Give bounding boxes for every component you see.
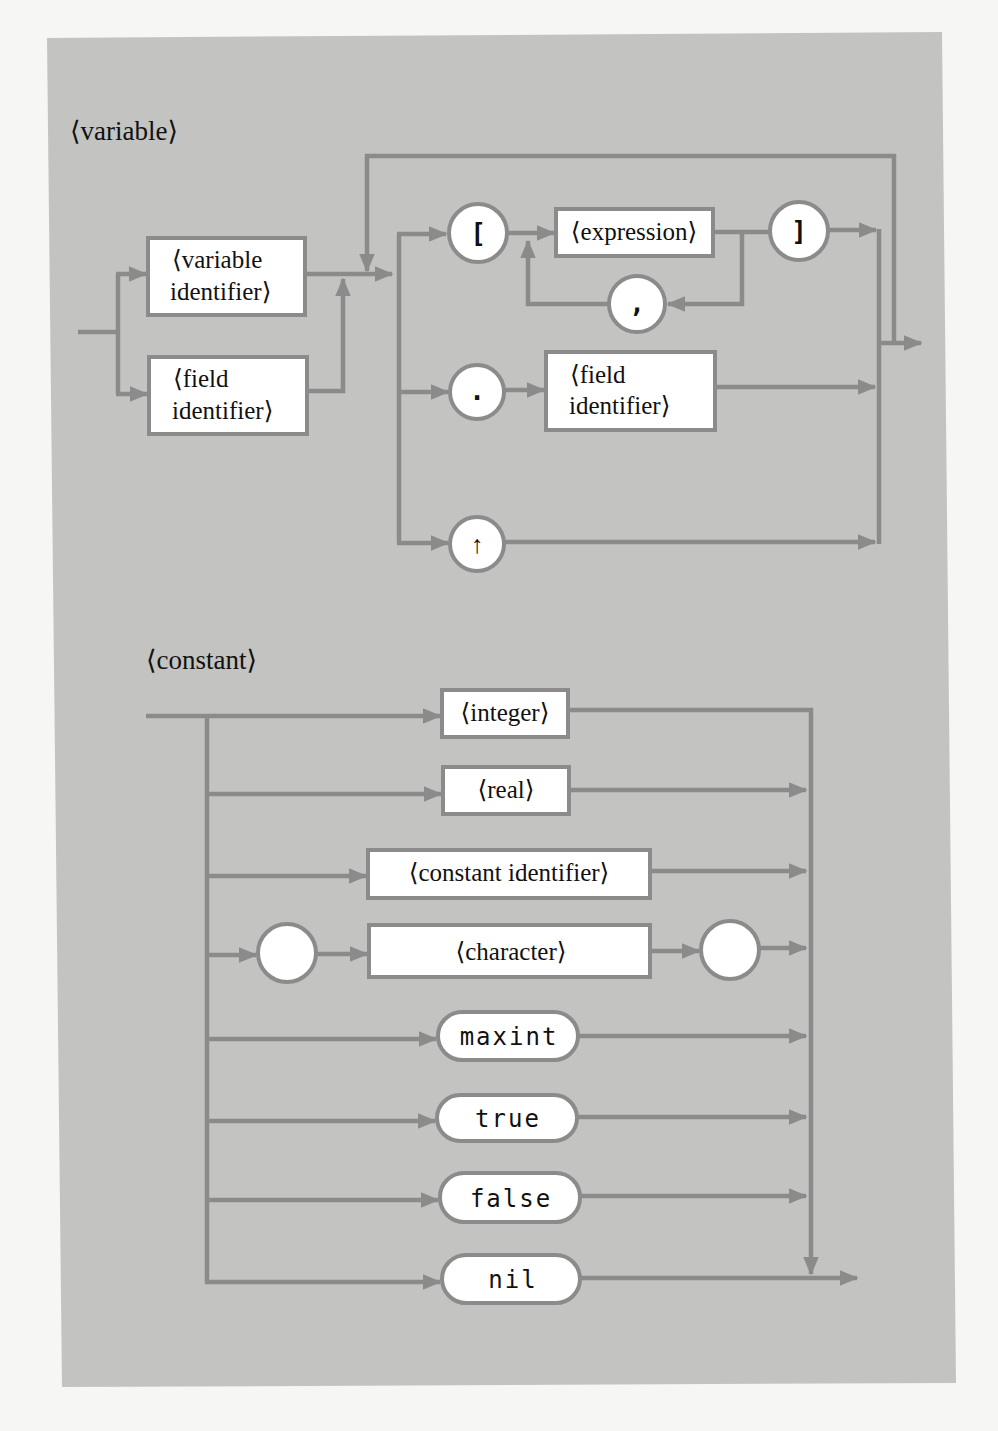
field-identifier-entry-line2: identifier⟩ [172, 397, 273, 424]
close-bracket-symbol: ] [791, 216, 807, 246]
pointer-arrow-icon: ↑ [471, 531, 484, 558]
variable-identifier-line2: identifier⟩ [170, 278, 271, 305]
true-label: true [475, 1105, 541, 1133]
field-identifier-selector-node: ⟨field identifier⟩ [546, 352, 715, 430]
nil-node: nil [442, 1255, 580, 1303]
close-bracket-node: ] [770, 202, 828, 260]
variable-title: ⟨variable⟩ [70, 116, 178, 146]
dot-node: . [450, 365, 504, 419]
nil-label: nil [488, 1266, 537, 1294]
expression-label: ⟨expression⟩ [571, 218, 697, 245]
expression-node: ⟨expression⟩ [556, 209, 713, 256]
character-node: ⟨character⟩ [369, 925, 650, 977]
integer-label: ⟨integer⟩ [461, 699, 550, 726]
variable-identifier-line1: ⟨variable [172, 246, 262, 273]
pointer-node: ↑ [450, 517, 504, 571]
character-label: ⟨character⟩ [455, 938, 566, 965]
dot-symbol: . [469, 376, 485, 406]
false-label: false [470, 1185, 552, 1213]
constant-identifier-label: ⟨constant identifier⟩ [409, 859, 610, 886]
comma-symbol: , [629, 288, 645, 318]
syntax-diagram-canvas: ⟨variable⟩ ⟨variable identifier⟩ ⟨field … [0, 0, 998, 1431]
true-node: true [437, 1095, 577, 1141]
field-identifier-entry-node: ⟨field identifier⟩ [149, 357, 307, 434]
open-bracket-symbol: [ [470, 218, 486, 248]
constant-identifier-node: ⟨constant identifier⟩ [368, 850, 650, 898]
false-node: false [440, 1173, 580, 1222]
variable-identifier-node: ⟨variable identifier⟩ [148, 238, 305, 315]
constant-title: ⟨constant⟩ [146, 645, 257, 675]
close-quote-node [701, 921, 759, 979]
maxint-node: maxint [438, 1012, 578, 1060]
open-quote-node [258, 924, 316, 982]
integer-node: ⟨integer⟩ [442, 690, 568, 737]
open-bracket-node: [ [449, 204, 507, 262]
field-identifier-selector-line2: identifier⟩ [569, 392, 670, 419]
field-identifier-selector-line1: ⟨field [570, 361, 626, 388]
comma-node: , [609, 276, 665, 332]
real-label: ⟨real⟩ [478, 776, 535, 803]
field-identifier-entry-line1: ⟨field [173, 365, 229, 392]
real-node: ⟨real⟩ [443, 767, 569, 814]
maxint-label: maxint [460, 1023, 559, 1051]
